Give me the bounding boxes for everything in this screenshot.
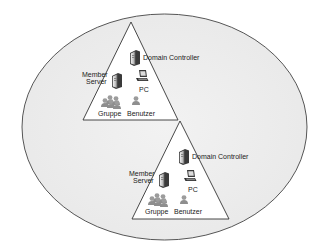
domain-controller-label: Domain Controller [143, 54, 200, 61]
member-server-label-line1: Member [129, 170, 155, 177]
domain-controller-label: Domain Controller [192, 153, 249, 160]
pc-label: PC [139, 86, 149, 93]
domain-controller-server-icon [179, 149, 189, 165]
member-server-icon [112, 73, 122, 89]
diagram-canvas: Domain Controller Member Server PC Grupp… [0, 0, 322, 251]
user-label: Benutzer [127, 110, 156, 117]
member-server-label-line2: Server [133, 177, 154, 184]
user-label: Benutzer [174, 208, 203, 215]
group-label: Gruppe [98, 110, 121, 118]
member-server-icon [159, 172, 169, 188]
member-server-label-line1: Member [82, 71, 108, 78]
domain-controller-server-icon [130, 50, 140, 66]
member-server-label-line2: Server [86, 78, 107, 85]
group-label: Gruppe [145, 208, 168, 216]
pc-label: PC [188, 186, 198, 193]
